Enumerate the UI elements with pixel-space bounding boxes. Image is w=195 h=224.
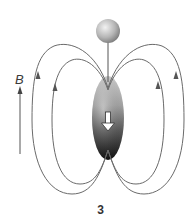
- arrowhead-inner-left: [53, 83, 58, 91]
- figure-number: 3: [0, 203, 195, 217]
- field-label: B: [15, 72, 24, 87]
- sphere: [96, 19, 120, 43]
- arrowhead-inner-right: [156, 81, 161, 89]
- dipole-field-diagram: B 3: [0, 0, 195, 224]
- arrowhead-outer-right: [174, 71, 179, 79]
- field-direction-arrow: [18, 86, 23, 154]
